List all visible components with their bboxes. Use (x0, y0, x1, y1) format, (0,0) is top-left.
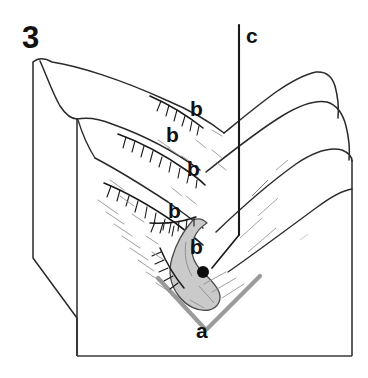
ridge-spur-right (206, 72, 352, 272)
vertical-reference-label-c: c (246, 25, 258, 46)
block-left-face (33, 62, 77, 356)
block-diagram-svg (0, 0, 368, 378)
valley-axis-label-a: a (196, 320, 208, 341)
figure-number-label: 3 (22, 22, 39, 53)
scarp-label-b-2: b (166, 124, 179, 145)
figure-container: 3 c b b b b b a (0, 0, 368, 378)
ridge-spur-left (33, 59, 224, 228)
scarp-label-b-5: b (190, 236, 203, 257)
scarp-label-b-1: b (190, 98, 203, 119)
scarp-label-b-3: b (187, 158, 200, 179)
source-point-marker (197, 266, 209, 278)
scarp-label-b-4: b (168, 200, 181, 221)
